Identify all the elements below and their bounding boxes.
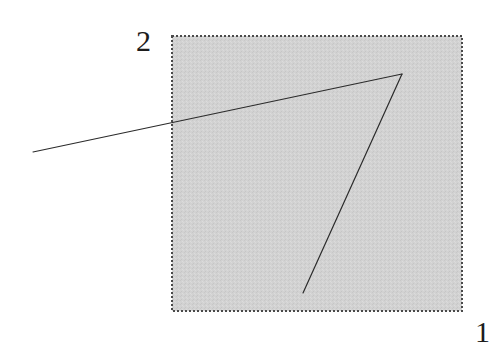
geometric-diagram (0, 0, 494, 349)
figure-canvas: 2 1 (0, 0, 494, 349)
region-label-1: 1 (475, 317, 490, 347)
region-label-2: 2 (136, 26, 151, 56)
shaded-region-rectangle (172, 36, 462, 311)
